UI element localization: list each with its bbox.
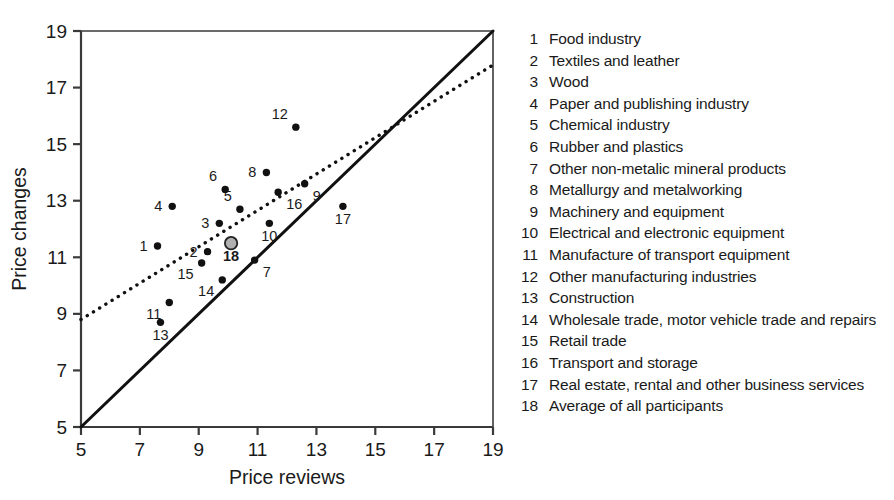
data-point-marker-10[interactable] (266, 220, 273, 227)
data-point-label-14: 14 (198, 283, 214, 299)
legend-item-label: Wood (549, 71, 589, 93)
y-tick-label-5: 5 (56, 417, 67, 438)
legend-item-number: 12 (512, 266, 538, 288)
data-point-marker-2[interactable] (204, 248, 211, 255)
legend-item-13[interactable]: 13Construction (512, 287, 894, 309)
legend-item-label: Retail trade (549, 330, 626, 352)
y-tick-label-19: 19 (46, 21, 67, 42)
legend-item-5[interactable]: 5Chemical industry (512, 114, 894, 136)
x-tick-label-11: 11 (248, 439, 268, 460)
data-point-marker-13[interactable] (157, 319, 164, 326)
data-point-marker-11[interactable] (166, 299, 173, 306)
legend-item-9[interactable]: 9Machinery and equipment (512, 201, 894, 223)
data-point-marker-6[interactable] (222, 186, 229, 193)
legend-item-number: 3 (512, 71, 538, 93)
data-point-label-8: 8 (248, 164, 256, 180)
legend-item-number: 8 (512, 179, 538, 201)
data-point-marker-3[interactable] (216, 220, 223, 227)
x-tick-label-15: 15 (365, 439, 386, 460)
legend-item-16[interactable]: 16Transport and storage (512, 352, 894, 374)
legend-item-11[interactable]: 11Manufacture of transport equipment (512, 244, 894, 266)
legend-item-number: 7 (512, 158, 538, 180)
legend-item-label: Construction (549, 287, 634, 309)
x-tick-label-17: 17 (424, 439, 445, 460)
legend-item-label: Rubber and plastics (549, 136, 683, 158)
data-point-marker-4[interactable] (169, 203, 176, 210)
x-tick-label-5: 5 (76, 439, 87, 460)
data-point-label-7: 7 (263, 264, 271, 280)
data-point-marker-17[interactable] (339, 203, 346, 210)
legend-item-number: 11 (512, 244, 538, 266)
data-point-label-15: 15 (178, 266, 194, 282)
y-tick-label-17: 17 (46, 77, 67, 98)
legend-item-number: 10 (512, 222, 538, 244)
legend-item-number: 16 (512, 352, 538, 374)
legend-item-7[interactable]: 7Other non-metalic mineral products (512, 158, 894, 180)
legend-item-label: Textiles and leather (549, 50, 680, 72)
legend-item-number: 13 (512, 287, 538, 309)
data-point-label-17: 17 (335, 211, 351, 227)
y-tick-label-11: 11 (47, 247, 67, 268)
legend-item-label: Manufacture of transport equipment (549, 244, 789, 266)
data-point-marker-9[interactable] (301, 180, 308, 187)
reference-lines-group (81, 31, 493, 427)
x-tick-label-19: 19 (482, 439, 503, 460)
data-point-marker-5[interactable] (236, 206, 243, 213)
data-point-label-13: 13 (152, 327, 168, 343)
legend-item-number: 15 (512, 330, 538, 352)
legend-item-label: Transport and storage (549, 352, 698, 374)
legend-item-number: 9 (512, 201, 538, 223)
data-point-marker-16[interactable] (274, 189, 281, 196)
legend-item-label: Food industry (549, 28, 641, 50)
y-tick-label-15: 15 (46, 134, 67, 155)
data-point-label-9: 9 (313, 188, 321, 204)
legend-item-number: 4 (512, 93, 538, 115)
data-point-label-12: 12 (272, 106, 288, 122)
data-point-marker-14[interactable] (219, 276, 226, 283)
legend-list: 1Food industry2Textiles and leather3Wood… (512, 28, 894, 417)
legend-item-label: Electrical and electronic equipment (549, 222, 784, 244)
legend-item-3[interactable]: 3Wood (512, 71, 894, 93)
legend-item-1[interactable]: 1Food industry (512, 28, 894, 50)
data-point-label-16: 16 (286, 196, 302, 212)
legend-item-8[interactable]: 8Metallurgy and metalworking (512, 179, 894, 201)
y-tick-label-7: 7 (56, 360, 67, 381)
plot-canvas: 57911131517195791113151719 1234567891011… (0, 0, 520, 500)
legend-item-15[interactable]: 15Retail trade (512, 330, 894, 352)
y-tick-label-13: 13 (46, 190, 67, 211)
trend-line (81, 65, 493, 320)
x-tick-label-7: 7 (135, 439, 146, 460)
axis-titles-group: Price reviewsPrice changes (8, 167, 345, 488)
legend-item-label: Machinery and equipment (549, 201, 724, 223)
data-points-group: 123456789101112131415161718 (139, 106, 351, 343)
data-point-marker-1[interactable] (154, 242, 161, 249)
legend-item-10[interactable]: 10Electrical and electronic equipment (512, 222, 894, 244)
legend-item-label: Paper and publishing industry (549, 93, 749, 115)
legend-item-4[interactable]: 4Paper and publishing industry (512, 93, 894, 115)
legend-item-number: 17 (512, 374, 538, 396)
legend-item-14[interactable]: 14Wholesale trade, motor vehicle trade a… (512, 309, 894, 331)
legend-item-18[interactable]: 18Average of all participants (512, 395, 894, 417)
data-point-label-3: 3 (201, 215, 209, 231)
legend-item-number: 2 (512, 50, 538, 72)
y-tick-label-9: 9 (56, 303, 67, 324)
data-point-label-2: 2 (189, 244, 197, 260)
legend-item-12[interactable]: 12Other manufacturing industries (512, 266, 894, 288)
x-axis-title: Price reviews (229, 466, 345, 488)
plot-area: 57911131517195791113151719 1234567891011… (0, 0, 520, 500)
data-point-marker-12[interactable] (292, 123, 299, 130)
legend-item-2[interactable]: 2Textiles and leather (512, 50, 894, 72)
data-point-marker-8[interactable] (263, 169, 270, 176)
legend-item-17[interactable]: 17Real estate, rental and other business… (512, 374, 894, 396)
legend-item-label: Other manufacturing industries (549, 266, 756, 288)
data-point-label-6: 6 (209, 168, 217, 184)
legend-item-6[interactable]: 6Rubber and plastics (512, 136, 894, 158)
y-axis-title: Price changes (8, 167, 30, 291)
legend-item-number: 5 (512, 114, 538, 136)
identity-line (81, 31, 493, 427)
legend-item-label: Wholesale trade, motor vehicle trade and… (549, 309, 876, 331)
legend-item-label: Metallurgy and metalworking (549, 179, 742, 201)
legend-item-label: Real estate, rental and other business s… (549, 374, 864, 396)
data-point-marker-15[interactable] (198, 259, 205, 266)
data-point-marker-7[interactable] (251, 256, 258, 263)
